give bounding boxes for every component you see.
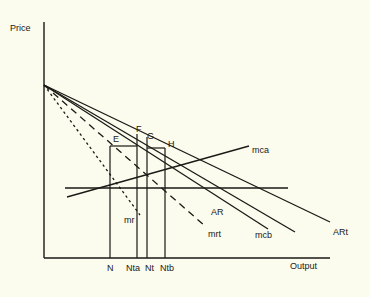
x-tick-label-N: N xyxy=(107,264,114,273)
curve-label-mrt: mrt xyxy=(208,230,221,239)
curve-label-AR: AR xyxy=(211,208,224,217)
axis-label-price: Price xyxy=(10,24,31,33)
curve-label-ARt: ARt xyxy=(333,228,348,237)
output-level-verticals xyxy=(110,134,165,258)
economics-diagram: PriceOutputARtARmcbmrtmrmcaEFGHNNtaNtNtb xyxy=(0,0,370,297)
x-tick-label-Nt: Nt xyxy=(145,264,154,273)
point-label-G: G xyxy=(147,132,154,141)
axis-label-output: Output xyxy=(290,262,317,271)
point-label-F: F xyxy=(136,125,142,134)
curve-ARt xyxy=(44,85,330,222)
axes xyxy=(44,22,330,258)
curve-label-mca: mca xyxy=(252,146,269,155)
point-label-E: E xyxy=(113,135,119,144)
curve-label-mr: mr xyxy=(124,216,135,225)
chart-canvas xyxy=(0,0,370,297)
point-label-H: H xyxy=(168,140,175,149)
curve-mrt xyxy=(44,85,205,226)
x-tick-label-Nta: Nta xyxy=(126,264,140,273)
curve-mcb xyxy=(44,85,268,229)
curve-AR xyxy=(44,85,295,232)
curve-label-mcb: mcb xyxy=(255,231,272,240)
x-tick-label-Ntb: Ntb xyxy=(160,264,174,273)
curve-series xyxy=(44,85,330,232)
curve-mr xyxy=(44,85,140,215)
